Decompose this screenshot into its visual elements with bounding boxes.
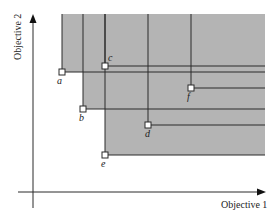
dominated-regions <box>62 14 265 155</box>
point-label-a: a <box>57 75 62 86</box>
y-axis-arrow-icon <box>30 14 37 23</box>
point-label-b: b <box>79 112 84 123</box>
pareto-diagram: Objective 2 Objective 1 abcdef <box>0 0 280 224</box>
x-axis-label: Objective 1 <box>221 199 267 210</box>
x-axis-arrow-icon <box>257 189 266 196</box>
point-label-c: c <box>108 52 113 63</box>
dominated-region-f <box>191 14 265 88</box>
point-label-e: e <box>101 158 106 169</box>
point-marker-c <box>102 63 108 69</box>
y-axis-label: Objective 2 <box>12 14 23 60</box>
